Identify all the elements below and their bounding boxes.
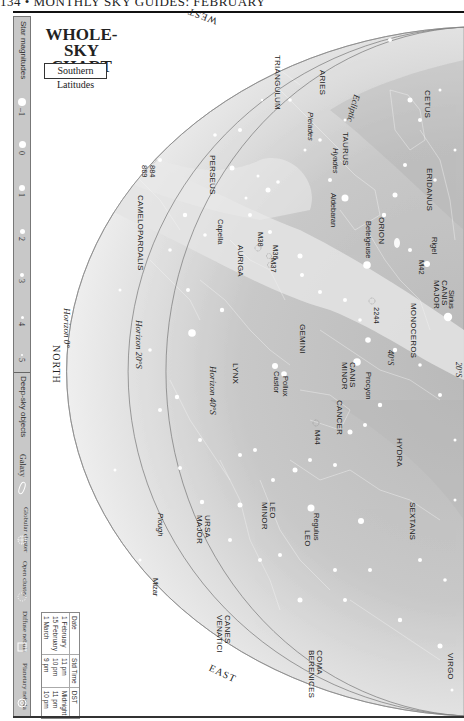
asterism-plough: Plough <box>156 513 165 536</box>
table-cell: 11 pm <box>51 687 60 718</box>
table-cell: 9 pm <box>42 655 51 688</box>
table-row: 15 February 10 pm 11 pm <box>51 613 60 718</box>
table-cell: Midnight <box>60 687 70 718</box>
constellation-virgo: VIRGO <box>446 653 455 680</box>
constellation-leo-minor: LEO MINOR <box>260 502 276 524</box>
table-row: 1 February 11 pm Midnight <box>60 613 70 718</box>
constellation-sextans: SEXTANS <box>408 502 417 540</box>
constellation-monoceros: MONOCEROS <box>409 303 418 358</box>
constellation-ursa-major: URSA MAJOR <box>195 515 211 537</box>
asterism-hyades: Hyades <box>331 148 340 173</box>
table-cell: 15 February <box>51 613 60 655</box>
dso-m37: M37 <box>269 258 278 273</box>
constellation-auriga: AURIGA <box>236 245 245 277</box>
constellation-canes-venatici: CANES VENATICI <box>215 615 231 641</box>
star-castor: Castor <box>272 371 281 393</box>
constellation-hydra: HYDRA <box>395 438 404 467</box>
horizon-40s-right-label: 40°S <box>386 350 395 365</box>
constellation-leo: LEO <box>303 530 312 547</box>
constellation-cetus: CETUS <box>423 90 432 118</box>
title-line1: WHOLE-SKY <box>44 27 119 59</box>
direction-north: NORTH <box>51 345 62 384</box>
dso-2244: 2244 <box>372 307 381 324</box>
asterism-pleiades: Pleiades <box>306 112 315 141</box>
table-cell: 10 pm <box>51 655 60 688</box>
table-header: Date <box>70 613 80 655</box>
star-sirius: Sirius <box>447 290 456 309</box>
star-rigel: Rigel <box>430 237 439 254</box>
star-betelgeuse: Betelgeuse <box>364 221 373 259</box>
star-aldebaran: Aldebaran <box>329 193 338 227</box>
horizon-40s-label: Horizon 40°S <box>208 366 218 415</box>
table-row: 1 March 9 pm 10 pm <box>42 613 51 718</box>
constellation-cancer: CANCER <box>335 400 344 435</box>
dso-m44: M44 <box>313 430 322 445</box>
horizon-20s-right-label: 20°S <box>454 362 463 377</box>
table-cell: 1 March <box>42 613 51 655</box>
table-cell: 11 pm <box>60 655 70 688</box>
constellation-orion: ORION <box>377 217 386 244</box>
table-cell: 1 February <box>60 613 70 655</box>
dso-884: 884 <box>148 165 157 178</box>
star-regulus: Regulus <box>312 513 321 541</box>
star-capella: Capella <box>216 219 225 244</box>
horizon-20s-label: Horizon 20°S <box>134 320 144 369</box>
constellation-aries: ARIES <box>318 70 327 95</box>
constellation-perseus: PERSEUS <box>208 155 217 195</box>
constellation-canis-minor: CANIS MINOR <box>340 362 356 384</box>
constellation-gemini: GEMINI <box>298 324 307 354</box>
constellation-camelopardalis: CAMELOPARDALIS <box>136 195 145 271</box>
nebula-m42 <box>394 238 400 248</box>
star-procyon: Procyon <box>364 372 373 400</box>
horizon-0-label: Horizon 0° <box>62 308 72 348</box>
constellation-eridanus: ERIDANUS <box>425 168 434 211</box>
star-mizar: Mizar <box>151 578 160 596</box>
viewing-times-table: Date Std Time DST 1 February 11 pm Midni… <box>41 612 80 719</box>
star-pollux: Pollux <box>281 376 290 396</box>
table-cell: 10 pm <box>42 687 51 718</box>
constellation-lynx: LYNX <box>231 363 240 384</box>
table-header: Std Time <box>70 655 80 688</box>
chart-subtitle: Southern Latitudes <box>44 63 107 79</box>
constellation-triangulum: TRIANGULUM <box>273 55 282 110</box>
dso-m38: M38 <box>256 232 265 247</box>
constellation-coma-berenices: COMA BERENICES <box>307 650 323 676</box>
table-header: DST <box>70 687 80 718</box>
dso-m42: M42 <box>417 260 426 275</box>
bottom-rule <box>13 716 464 718</box>
constellation-taurus: TAURUS <box>341 132 350 166</box>
constellation-canis-major: CANIS MAJOR <box>432 280 448 302</box>
dso-869: 869 <box>140 165 149 178</box>
